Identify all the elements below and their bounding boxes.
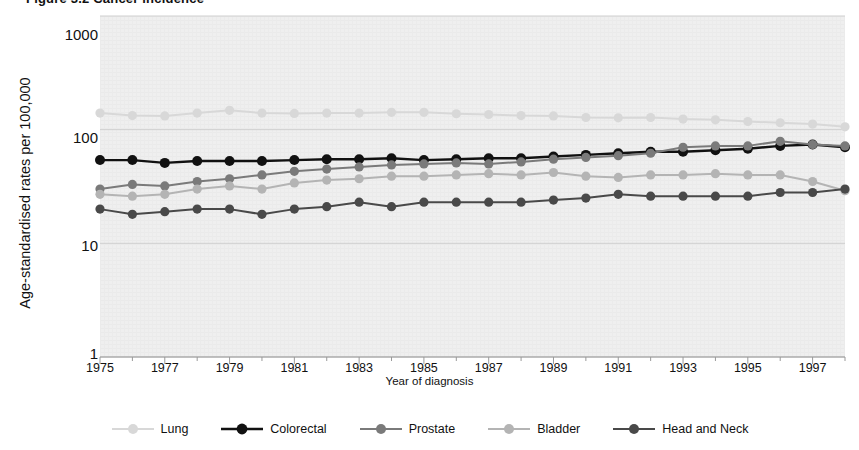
legend-marker-icon — [487, 421, 531, 437]
data-point — [322, 164, 331, 173]
data-point — [225, 205, 234, 214]
data-point — [128, 111, 137, 120]
data-point — [95, 108, 104, 117]
data-point — [614, 113, 623, 122]
data-point — [355, 108, 364, 117]
legend-marker-icon — [612, 421, 656, 437]
data-point — [193, 108, 202, 117]
data-point — [322, 176, 331, 185]
data-point — [516, 198, 525, 207]
data-point — [646, 113, 655, 122]
legend-marker-icon — [359, 421, 403, 437]
data-point — [387, 172, 396, 181]
data-point — [581, 113, 590, 122]
data-point — [743, 141, 752, 150]
data-point — [290, 167, 299, 176]
data-point — [322, 154, 332, 164]
legend-item-lung[interactable]: Lung — [111, 421, 189, 437]
data-point — [581, 172, 590, 181]
x-tick-1981: 1981 — [271, 361, 317, 375]
data-point — [452, 109, 461, 118]
data-point — [257, 210, 266, 219]
legend-marker-icon — [220, 421, 264, 437]
data-point — [646, 149, 655, 158]
data-point — [743, 117, 752, 126]
legend-item-head-and-neck[interactable]: Head and Neck — [612, 421, 748, 437]
x-tick-1983: 1983 — [336, 361, 382, 375]
data-point — [614, 173, 623, 182]
data-point — [225, 106, 234, 115]
data-point — [160, 190, 169, 199]
data-point — [387, 202, 396, 211]
data-point — [257, 185, 266, 194]
data-point — [678, 170, 687, 179]
legend-label: Head and Neck — [662, 422, 748, 436]
data-point — [484, 159, 493, 168]
data-point — [95, 155, 105, 165]
data-point — [840, 141, 849, 150]
data-point — [678, 143, 687, 152]
legend-item-colorectal[interactable]: Colorectal — [220, 421, 326, 437]
data-point — [549, 196, 558, 205]
x-tick-1987: 1987 — [466, 361, 512, 375]
data-point — [128, 210, 137, 219]
data-point — [128, 192, 137, 201]
data-point — [808, 119, 817, 128]
x-tick-1991: 1991 — [595, 361, 641, 375]
data-point — [743, 192, 752, 201]
data-point — [257, 156, 267, 166]
data-point — [193, 205, 202, 214]
data-point — [289, 155, 299, 165]
data-point — [192, 156, 202, 166]
data-point — [160, 158, 170, 168]
data-point — [711, 115, 720, 124]
data-point — [678, 114, 687, 123]
data-point — [581, 194, 590, 203]
data-point — [128, 180, 137, 189]
data-point — [452, 158, 461, 167]
x-tick-1985: 1985 — [401, 361, 447, 375]
legend-item-prostate[interactable]: Prostate — [359, 421, 456, 437]
data-point — [387, 108, 396, 117]
data-point — [193, 185, 202, 194]
data-point — [484, 198, 493, 207]
data-point — [257, 108, 266, 117]
data-point — [711, 141, 720, 150]
y-tick-100: 100 — [38, 129, 98, 146]
data-point — [95, 190, 104, 199]
x-tick-1997: 1997 — [790, 361, 836, 375]
data-point — [225, 181, 234, 190]
data-point — [160, 207, 169, 216]
data-point — [322, 108, 331, 117]
data-point — [776, 188, 785, 197]
y-tick-1: 1 — [38, 345, 98, 362]
figure-container: Figure 3.2 Cancer incidence Age-standard… — [0, 0, 859, 450]
data-point — [355, 198, 364, 207]
data-point — [840, 122, 849, 131]
legend-item-bladder[interactable]: Bladder — [487, 421, 580, 437]
x-tick-1979: 1979 — [207, 361, 253, 375]
data-point — [840, 185, 849, 194]
data-point — [646, 192, 655, 201]
data-point — [290, 205, 299, 214]
data-point — [355, 174, 364, 183]
x-tick-1975: 1975 — [77, 361, 123, 375]
data-point — [484, 110, 493, 119]
data-point — [549, 111, 558, 120]
chart-legend: LungColorectalProstateBladderHead and Ne… — [0, 415, 859, 443]
data-point — [516, 111, 525, 120]
data-point — [743, 170, 752, 179]
legend-marker-icon — [111, 421, 155, 437]
data-point — [678, 192, 687, 201]
data-point — [419, 172, 428, 181]
data-point — [127, 155, 137, 165]
x-axis-label: Year of diagnosis — [0, 375, 859, 387]
data-point — [290, 109, 299, 118]
data-point — [614, 190, 623, 199]
data-point — [614, 151, 623, 160]
legend-label: Bladder — [537, 422, 580, 436]
data-point — [160, 111, 169, 120]
data-point — [549, 168, 558, 177]
data-point — [484, 169, 493, 178]
data-point — [776, 170, 785, 179]
